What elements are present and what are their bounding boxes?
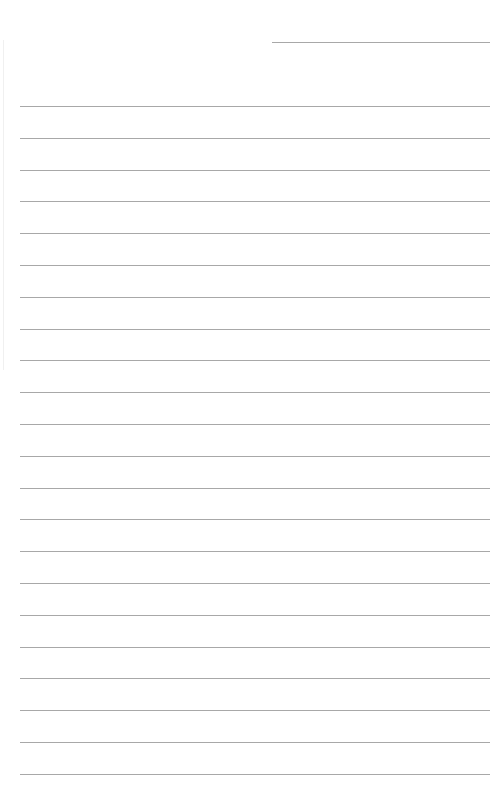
rule-line [20,742,490,743]
rule-line [20,265,490,266]
rule-line [20,710,490,711]
rule-line [20,233,490,234]
left-margin-line [3,40,4,370]
rule-line [20,647,490,648]
rule-line [20,170,490,171]
rule-line [20,329,490,330]
rule-line [20,678,490,679]
rule-line [20,519,490,520]
rule-line [20,392,490,393]
rule-line [20,583,490,584]
rule-line [20,774,490,775]
rule-line [20,456,490,457]
rule-line [20,488,490,489]
rule-line [20,424,490,425]
header-line [272,42,490,43]
rule-line [20,106,490,107]
rule-line [20,138,490,139]
rule-line [20,615,490,616]
rule-line [20,201,490,202]
rule-line [20,297,490,298]
rule-line [20,551,490,552]
rule-line [20,360,490,361]
